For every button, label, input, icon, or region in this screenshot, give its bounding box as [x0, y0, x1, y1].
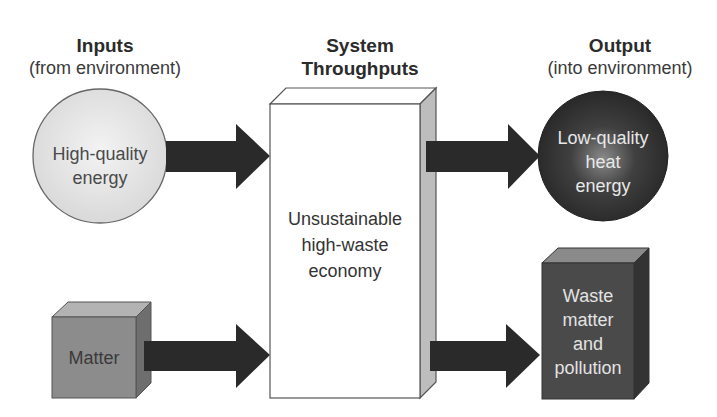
output-header: Output (into environment) — [525, 34, 715, 79]
system-header: System Throughputs — [260, 34, 460, 80]
economy-label: Unsustainable high-waste economy — [270, 206, 420, 284]
arrow-energy-to-economy — [166, 124, 270, 189]
system-title-line2: Throughputs — [260, 57, 460, 80]
inputs-title: Inputs — [10, 34, 200, 57]
arrow-matter-to-economy — [144, 324, 270, 388]
high-quality-energy-label: High-quality energy — [30, 142, 170, 190]
matter-label: Matter — [52, 346, 136, 370]
inputs-header: Inputs (from environment) — [10, 34, 200, 79]
waste-label: Waste matter and pollution — [542, 284, 634, 380]
inputs-subtitle: (from environment) — [10, 57, 200, 79]
system-title-line1: System — [260, 34, 460, 57]
output-title: Output — [525, 34, 715, 57]
arrow-economy-to-heat — [426, 124, 540, 189]
low-quality-heat-label: Low-quality heat energy — [538, 126, 668, 198]
output-subtitle: (into environment) — [525, 57, 715, 79]
arrow-economy-to-waste — [430, 324, 540, 388]
